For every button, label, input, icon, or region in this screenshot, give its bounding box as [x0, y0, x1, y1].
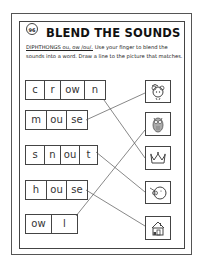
line-house	[86, 190, 145, 226]
match-lines	[0, 0, 208, 267]
line-snout	[96, 152, 145, 192]
line-owl	[76, 130, 145, 216]
